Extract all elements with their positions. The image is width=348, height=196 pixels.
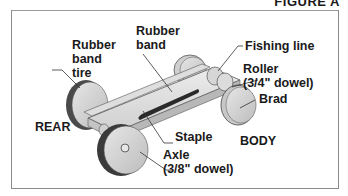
label-fishing-line: Fishing line — [245, 39, 314, 53]
label-roller: Roller (3/4" dowel) — [243, 62, 314, 90]
label-line: Axle — [163, 148, 234, 162]
label-body: BODY — [240, 134, 276, 148]
label-line: Rubber — [72, 38, 116, 52]
axle-hole — [121, 144, 129, 152]
label-line: (3/8" dowel) — [163, 162, 234, 176]
label-line: Rubber — [136, 24, 180, 38]
label-rubber-band: Rubber band — [136, 24, 180, 52]
label-line: Roller — [243, 62, 314, 76]
label-line: band — [136, 38, 180, 52]
label-line: tire — [72, 66, 116, 80]
label-brad: Brad — [259, 92, 287, 106]
label-line: band — [72, 52, 116, 66]
label-rubber-band-tire: Rubber band tire — [72, 38, 116, 80]
label-line: (3/4" dowel) — [243, 76, 314, 90]
label-rear: REAR — [35, 120, 70, 134]
front-left-wheel — [97, 124, 148, 176]
label-axle: Axle (3/8" dowel) — [163, 148, 234, 176]
front-right-wheel — [221, 85, 256, 125]
label-staple: Staple — [175, 130, 213, 144]
